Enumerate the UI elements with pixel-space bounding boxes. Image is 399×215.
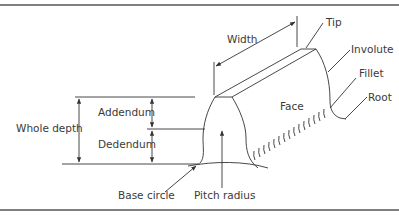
root-leader	[345, 97, 367, 119]
fillet-leader	[330, 78, 356, 108]
involute-leader	[328, 50, 350, 72]
label-width: Width	[227, 33, 258, 45]
label-tip: Tip	[325, 16, 342, 28]
label-whole-depth: Whole depth	[16, 122, 83, 134]
label-base-circle: Base circle	[118, 189, 175, 201]
root-hatching	[254, 109, 325, 160]
tip-edge-back	[232, 49, 316, 97]
involute-back-profile	[316, 49, 346, 119]
label-face: Face	[280, 100, 304, 112]
label-fillet: Fillet	[359, 67, 384, 79]
label-addendum: Addendum	[98, 106, 155, 118]
tip-leader	[306, 23, 323, 48]
base-circle-arc	[188, 162, 268, 168]
label-pitch-radius: Pitch radius	[194, 189, 255, 201]
label-root: Root	[368, 91, 392, 103]
tooth-front-profile	[200, 97, 258, 168]
tip-edge-front	[215, 49, 301, 97]
gear-tooth-diagram: Width Tip Involute Fillet Root Face Adde…	[0, 0, 399, 215]
label-involute: Involute	[351, 43, 394, 55]
label-dedendum: Dedendum	[98, 138, 156, 150]
